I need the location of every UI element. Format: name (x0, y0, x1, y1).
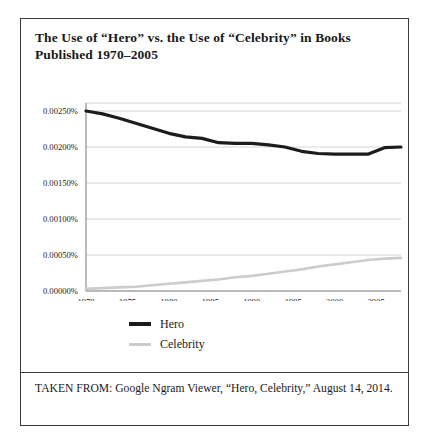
y-axis-tick-label: 0.00000% (43, 286, 78, 296)
legend-label-celebrity: Celebrity (160, 338, 205, 350)
line-chart: 0.00000%0.00050%0.00100%0.00150%0.00200%… (21, 73, 410, 301)
chart-legend: Hero Celebrity (21, 314, 410, 354)
source-note: TAKEN FROM: Google Ngram Viewer, “Hero, … (35, 381, 397, 397)
x-axis-tick-label: 1980 (160, 297, 177, 301)
x-axis-tick-label: 1985 (202, 297, 219, 301)
legend-item-hero: Hero (129, 314, 410, 334)
legend-swatch-hero-icon (129, 322, 151, 326)
x-axis-tick-label: 2000 (326, 297, 343, 301)
note-separator (21, 372, 408, 373)
x-axis-tick-label: 1990 (243, 297, 260, 301)
y-axis-tick-label: 0.00100% (43, 214, 78, 224)
x-axis-tick-label: 1995 (285, 297, 302, 301)
legend-label-hero: Hero (160, 318, 184, 330)
x-axis-tick-label: 1970 (77, 297, 94, 301)
chart-plot-area: 0.00000%0.00050%0.00100%0.00150%0.00200%… (21, 73, 410, 301)
y-axis-tick-label: 0.00250% (43, 106, 78, 116)
legend-item-celebrity: Celebrity (129, 334, 410, 354)
series-line-hero (86, 111, 401, 154)
x-axis-tick-label: 1975 (119, 297, 136, 301)
figure-card: The Use of “Hero” vs. the Use of “Celebr… (20, 18, 409, 426)
legend-swatch-celebrity-icon (129, 343, 151, 346)
figure-title: The Use of “Hero” vs. the Use of “Celebr… (35, 29, 397, 63)
y-axis-tick-label: 0.00200% (43, 142, 78, 152)
x-axis-tick-label: 2005 (368, 297, 385, 301)
series-line-celebrity (86, 258, 401, 289)
y-axis-tick-label: 0.00150% (43, 178, 78, 188)
y-axis-tick-label: 0.00050% (43, 250, 78, 260)
